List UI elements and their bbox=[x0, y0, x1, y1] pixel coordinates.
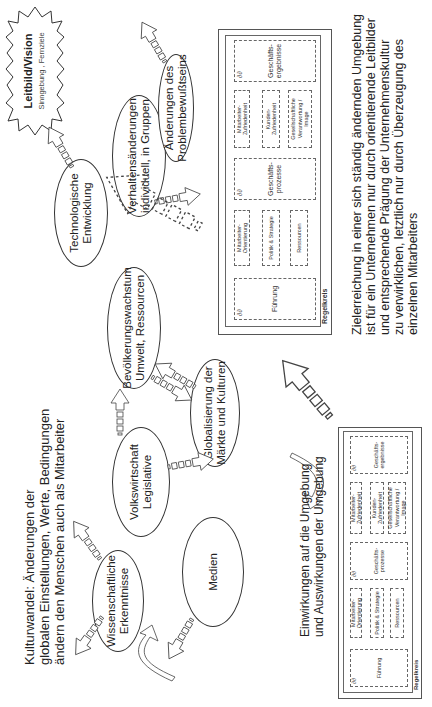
arrow-icon bbox=[134, 18, 173, 67]
regelkreis-label: Regelkreis bbox=[321, 289, 328, 324]
rk-geschaeftsergebnisse: Geschäfts-ergebnisse bbox=[234, 40, 316, 82]
rk-ressourcen: Ressourcen bbox=[290, 210, 308, 266]
rk-kunden-zufriedenheit: Kunden-Zufriedenheit bbox=[370, 482, 384, 534]
culture-change-diagram: Leitbild/Vision Sinngebung , Fernziele K… bbox=[0, 0, 432, 707]
goal-text: Zielerreichung in einer sich ständig änd… bbox=[350, 14, 420, 335]
regelkreis-label: Regelkreis bbox=[413, 660, 419, 690]
rk-symbol: ∂∂ bbox=[351, 465, 357, 471]
rk-mitarbeiter-zufriedenheit: Mitarbeiter-Zufriedenheit bbox=[234, 90, 250, 148]
rk-mitarbeiter-zufriedenheit: Mitarbeiter-Zufriedenheit bbox=[350, 482, 362, 534]
rk-gesellschaftliche-verantwortung: GesellschaftlicheVerantwortung /Image bbox=[288, 90, 312, 148]
rk-geschaeftsprozesse: Geschäfts-prozesse bbox=[350, 542, 408, 580]
rk-mitarbeiter-orientierung: Mitarbeiter-Orientierung bbox=[234, 210, 250, 266]
rk-ressourcen: Ressourcen bbox=[390, 588, 404, 638]
rk-symbol: ∂∂ bbox=[236, 71, 243, 78]
rk-fuehrung: Führung bbox=[350, 649, 408, 687]
arrow-icon bbox=[66, 516, 107, 564]
arrow-icon bbox=[272, 351, 341, 426]
arrow-icon bbox=[166, 450, 214, 476]
rk-symbol: ∂∂ bbox=[351, 678, 357, 684]
rk-symbol: ∂∂ bbox=[351, 571, 357, 577]
arrow-icon bbox=[41, 123, 80, 172]
arrow-icon bbox=[68, 612, 109, 660]
arrow-icon bbox=[161, 615, 200, 664]
rk-politik-strategie: Politik & Strategie bbox=[370, 588, 384, 638]
rk-geschaeftsprozesse: Geschäfts-prozesse bbox=[234, 158, 316, 200]
regelkreis-model-lower: Führung Mitarbeiter-Orientierung Politik… bbox=[338, 427, 422, 699]
rk-politik-strategie: Politik & Strategie bbox=[262, 210, 280, 266]
rk-kunden-zufriedenheit: Kunden-Zufriedenheit bbox=[262, 90, 280, 148]
rk-geschaeftsergebnisse: Geschäfts-ergebnisse bbox=[350, 436, 408, 474]
rk-mitarbeiter-orientierung: Mitarbeiter-Orientierung bbox=[350, 588, 362, 638]
rk-symbol: ∂∂ bbox=[236, 309, 243, 316]
regelkreis-model-upper: Führung Mitarbeiter-Orientierung Politik… bbox=[218, 29, 332, 335]
interaction-text: Einwirkungen auf die Umgebung und Auswir… bbox=[298, 456, 326, 637]
rk-gesellschaftliche-verantwortung: GesellschaftlicheVerantwortung /Image bbox=[388, 482, 406, 534]
rk-symbol: ∂∂ bbox=[236, 189, 243, 196]
rk-fuehrung: Führung bbox=[234, 278, 316, 320]
